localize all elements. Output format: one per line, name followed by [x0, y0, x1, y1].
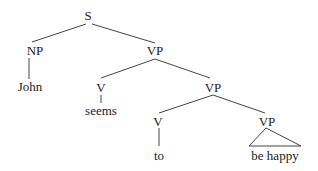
- edge-s-np: [32, 24, 86, 42]
- node-s: S: [84, 9, 91, 22]
- triangle-vp3: [249, 128, 301, 146]
- node-to: to: [154, 149, 164, 162]
- tree-edges: [0, 0, 318, 171]
- node-john: John: [18, 80, 43, 93]
- edge-vp-vp2: [155, 59, 210, 78]
- node-v: V: [96, 81, 105, 94]
- node-be-happy: be happy: [251, 149, 298, 162]
- edge-vp-v: [101, 59, 155, 78]
- edge-vp2-vp3: [213, 95, 265, 113]
- node-v2: V: [153, 115, 162, 128]
- edge-s-vp: [92, 24, 155, 43]
- node-np: NP: [27, 44, 44, 57]
- node-vp: VP: [147, 44, 164, 57]
- edge-vp2-v: [159, 95, 213, 113]
- node-vp3: VP: [259, 115, 276, 128]
- node-vp2: VP: [205, 81, 222, 94]
- node-seems: seems: [85, 104, 117, 117]
